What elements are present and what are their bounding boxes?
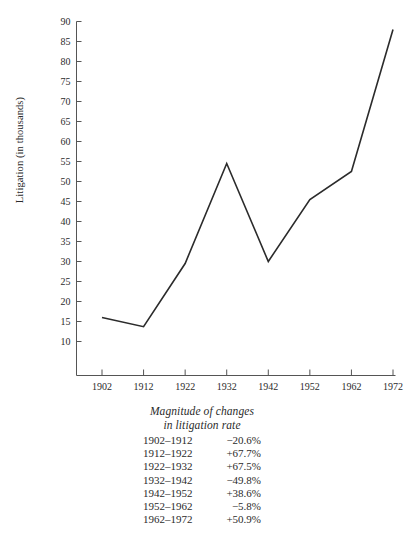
y-tick-label: 30 <box>45 257 71 267</box>
x-tick-label: 1902 <box>82 382 122 392</box>
plot-area: 1015202530354045505560657075808590 19021… <box>0 0 404 400</box>
y-tick-label: 80 <box>45 57 71 67</box>
caption-change-value: +38.6% <box>209 487 261 500</box>
x-tick-label: 1932 <box>207 382 247 392</box>
y-axis-title: Litigation (in thousands) <box>14 0 25 300</box>
y-tick-label: 60 <box>45 137 71 147</box>
caption-title-line-2: in litigation rate <box>0 418 404 432</box>
caption-change-value: +67.5% <box>209 460 261 473</box>
y-tick-label: 90 <box>45 17 71 27</box>
caption-period: 1942–1952 <box>143 487 209 500</box>
caption-period: 1952–1962 <box>143 500 209 513</box>
caption-period: 1932–1942 <box>143 474 209 487</box>
caption-row: 1932–1942−49.8% <box>143 474 261 487</box>
x-tick-label: 1912 <box>124 382 164 392</box>
caption-row: 1912–1922+67.7% <box>143 447 261 460</box>
y-tick-label: 65 <box>45 117 71 127</box>
caption-period: 1962–1972 <box>143 513 209 526</box>
caption-row: 1952–1962−5.8% <box>143 500 261 513</box>
caption-change-value: −5.8% <box>209 500 261 513</box>
y-tick-label: 40 <box>45 217 71 227</box>
y-tick-label: 70 <box>45 97 71 107</box>
x-tick-label: 1972 <box>373 382 404 392</box>
y-tick-label: 35 <box>45 237 71 247</box>
y-tick-label: 15 <box>45 317 71 327</box>
caption-period: 1922–1932 <box>143 460 209 473</box>
y-tick-label: 75 <box>45 77 71 87</box>
caption-row: 1962–1972+50.9% <box>143 513 261 526</box>
x-tick-label: 1942 <box>248 382 288 392</box>
y-tick-label: 45 <box>45 197 71 207</box>
caption-change-value: −49.8% <box>209 474 261 487</box>
chart-caption: Magnitude of changes in litigation rate … <box>0 404 404 527</box>
caption-change-table: 1902–1912−20.6%1912–1922+67.7%1922–1932+… <box>143 434 261 526</box>
caption-row: 1902–1912−20.6% <box>143 434 261 447</box>
caption-change-value: +67.7% <box>209 447 261 460</box>
litigation-line-chart-figure: 1015202530354045505560657075808590 19021… <box>0 0 404 546</box>
caption-title-line-1: Magnitude of changes <box>0 404 404 418</box>
caption-period: 1902–1912 <box>143 434 209 447</box>
caption-change-value: −20.6% <box>209 434 261 447</box>
y-tick-label: 20 <box>45 297 71 307</box>
y-tick-label: 55 <box>45 157 71 167</box>
x-tick-label: 1922 <box>165 382 205 392</box>
litigation-data-line <box>102 30 393 327</box>
x-tick-label: 1962 <box>331 382 371 392</box>
y-tick-label: 10 <box>45 337 71 347</box>
y-tick-label: 25 <box>45 277 71 287</box>
caption-row: 1942–1952+38.6% <box>143 487 261 500</box>
y-tick-label: 50 <box>45 177 71 187</box>
caption-period: 1912–1922 <box>143 447 209 460</box>
x-tick-label: 1952 <box>290 382 330 392</box>
y-tick-label: 85 <box>45 37 71 47</box>
caption-change-value: +50.9% <box>209 513 261 526</box>
caption-row: 1922–1932+67.5% <box>143 460 261 473</box>
